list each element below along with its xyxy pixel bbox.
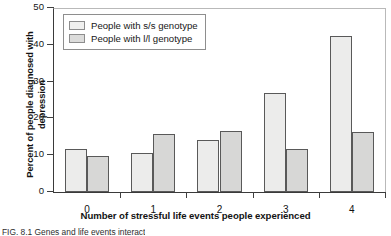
y-axis-tick-label: 0 [39,185,44,196]
x-axis-tick [385,192,386,198]
legend-label-series-0: People with s/s genotype [91,20,198,31]
y-axis-tick: 40 [47,44,54,45]
y-axis-tick: 30 [47,81,54,82]
bar-1-series-1 [153,134,175,192]
x-axis-title: Number of stressful life events people e… [0,210,391,221]
y-axis-tick-label: 50 [33,1,44,12]
bar-3-series-1 [286,149,308,192]
x-axis-tick [186,192,187,198]
chart-legend: People with s/s genotype People with l/l… [63,14,206,50]
legend-swatch-icon-series-1 [69,34,85,43]
y-axis-tick: 20 [47,117,54,118]
y-axis-tick-label: 30 [33,75,44,86]
x-axis-tick [253,192,254,198]
bar-1-series-0 [131,153,153,192]
y-axis-tick: 50 [47,7,54,8]
bar-4-series-0 [330,36,352,192]
figure: Percent of people diagnosed with depress… [0,0,391,236]
bar-2-series-1 [220,131,242,192]
y-axis-tick: 0 [47,191,54,192]
y-axis-tick-label: 40 [33,38,44,49]
y-axis-tick-label: 10 [33,148,44,159]
legend-swatch-icon-series-0 [69,21,85,30]
bar-4-series-1 [352,132,374,192]
x-axis-tick [319,192,320,198]
bar-0-series-0 [65,149,87,192]
bar-2-series-0 [197,140,219,192]
legend-label-series-1: People with l/l genotype [91,33,192,44]
legend-item-series-1: People with l/l genotype [69,32,198,45]
x-axis-tick [120,192,121,198]
figure-caption: FIG. 8.1 Genes and life events interact [2,227,145,236]
legend-item-series-0: People with s/s genotype [69,19,198,32]
y-axis-tick: 10 [47,154,54,155]
bar-0-series-1 [87,156,109,192]
bar-3-series-0 [264,93,286,192]
y-axis-tick-label: 20 [33,111,44,122]
